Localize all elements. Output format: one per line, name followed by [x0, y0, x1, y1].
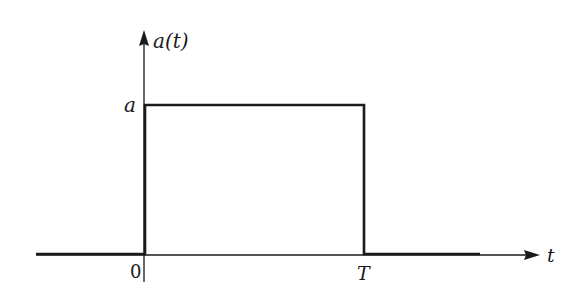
pulse-waveform — [36, 105, 480, 254]
x-axis-label: t — [547, 244, 555, 266]
y-axis-arrow-icon — [139, 30, 149, 46]
y-axis-label: a(t) — [153, 29, 189, 53]
amplitude-label: a — [124, 93, 136, 117]
end-label: T — [357, 262, 371, 284]
pulse-diagram: a(t) a 0 T t — [0, 0, 571, 293]
origin-label: 0 — [130, 261, 141, 282]
x-axis-arrow-icon — [524, 250, 540, 260]
